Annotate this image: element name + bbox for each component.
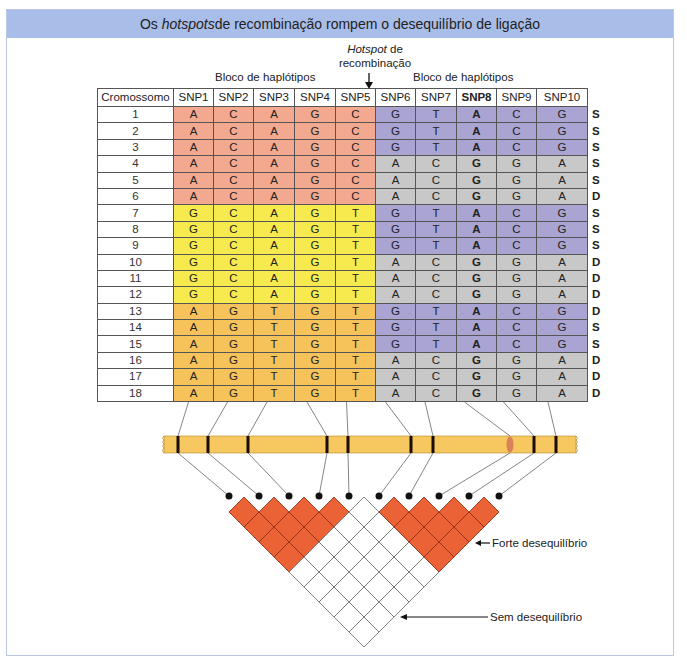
connector-line-bar-dot	[499, 453, 556, 496]
connector-line-bar-dot	[379, 453, 411, 496]
connector-line-bar-dot	[409, 453, 433, 496]
hotspot-arrowhead	[365, 82, 373, 89]
snp-dot	[346, 493, 353, 500]
snp-dot	[376, 493, 383, 500]
snp-marker	[177, 436, 180, 453]
snp-dot	[226, 493, 233, 500]
recombination-hotspot-mark	[507, 437, 514, 453]
no-ld-arrowhead	[400, 614, 407, 620]
connector-line-table-bar	[248, 402, 267, 436]
connector-line-table-bar	[208, 402, 228, 436]
snp-dot	[496, 493, 503, 500]
connector-line-table-bar	[425, 402, 433, 436]
connector-line-table-bar	[504, 402, 535, 436]
snp-dot	[256, 493, 263, 500]
connector-line-bar-dot	[469, 453, 534, 496]
snp-marker	[207, 436, 210, 453]
connector-line-bar-dot	[319, 453, 327, 496]
snp-dot	[436, 493, 443, 500]
snp-marker	[326, 436, 329, 453]
snp-marker	[533, 436, 536, 453]
strong-ld-arrowhead	[475, 540, 481, 546]
snp-marker	[347, 436, 350, 453]
snp-marker	[410, 436, 413, 453]
connector-line-table-bar	[347, 402, 349, 436]
snp-marker	[247, 436, 250, 453]
no-ld-label: Sem desequilíbrio	[490, 611, 582, 623]
connector-line-table-bar	[465, 402, 511, 436]
snp-dot	[286, 493, 293, 500]
connector-line-bar-dot	[348, 453, 349, 496]
connector-line-bar-dot	[178, 453, 229, 496]
connector-line-bar-dot	[248, 453, 289, 496]
connector-line-table-bar	[178, 402, 189, 436]
diagram-overlay: Forte desequilíbrioSem desequilíbrio	[0, 0, 687, 663]
snp-dot	[466, 493, 473, 500]
connector-line-bar-dot	[439, 453, 510, 496]
snp-dot	[316, 493, 323, 500]
connector-line-bar-dot	[208, 453, 259, 496]
strong-ld-label: Forte desequilíbrio	[492, 537, 587, 549]
chromosome-bar	[164, 436, 576, 453]
connector-line-table-bar	[307, 402, 327, 436]
snp-dot	[406, 493, 413, 500]
connector-line-table-bar	[386, 402, 412, 436]
snp-marker	[555, 436, 558, 453]
snp-marker	[432, 436, 435, 453]
connector-line-table-bar	[548, 402, 556, 436]
